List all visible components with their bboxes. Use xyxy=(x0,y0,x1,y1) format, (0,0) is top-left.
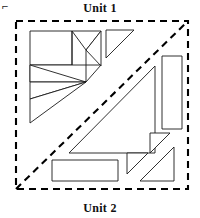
unit-2-label: Unit 2 xyxy=(0,201,200,216)
dissection-diagram-svg xyxy=(0,0,200,218)
small-triangle-bottom-center xyxy=(127,153,148,174)
horizontal-rectangle-bottom xyxy=(52,160,118,181)
tall-rectangle-right xyxy=(162,56,182,129)
small-triangle-right-notch xyxy=(150,133,170,153)
small-triangle-top-right xyxy=(106,30,134,58)
tangram-dissection-figure: ⌐ Unit 1 Unit 2 xyxy=(0,0,200,218)
tangram-square-upper-left xyxy=(30,31,72,65)
